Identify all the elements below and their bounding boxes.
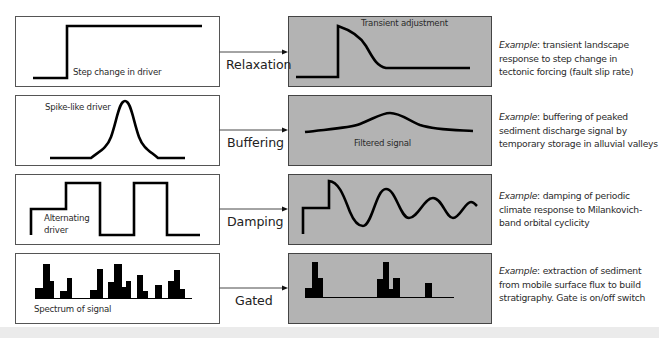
arrowhead-icon [282,128,288,133]
example-prefix: Example [499,39,537,50]
arrowhead-icon [282,207,288,212]
row-damping [16,175,492,245]
driver-label-spike: Spike-like driver [45,102,111,112]
example-prefix: Example [499,265,537,276]
process-label-buffering: Buffering [227,135,284,150]
driver-label-spectrum: Spectrum of signal [34,304,111,314]
example-caption-buffering: Example: buffering of peakedsediment dis… [499,110,659,151]
process-label-damping: Damping [227,214,283,229]
example-prefix: Example [499,190,537,201]
bottom-band [0,327,659,338]
example-prefix: Example [499,111,537,122]
driver-label-step: Step change in driver [73,67,161,77]
response-box-damped [289,175,492,245]
driver-label-alternating-2: driver [44,225,68,235]
response-label-filtered: Filtered signal [354,138,411,148]
process-label-relaxation: Relaxation [226,57,291,72]
process-label-gated: Gated [235,293,273,308]
example-caption-damping: Example: damping of periodicclimate resp… [499,189,659,230]
arrowhead-icon [282,286,288,291]
example-caption-gated: Example: extraction of sedimentfrom mobi… [499,264,659,305]
response-label-transient: Transient adjustment [361,18,448,28]
arrowhead-icon [282,50,288,55]
example-caption-relaxation: Example: transient landscaperesponse to … [499,38,659,79]
driver-label-alternating-1: Alternating [44,213,89,223]
